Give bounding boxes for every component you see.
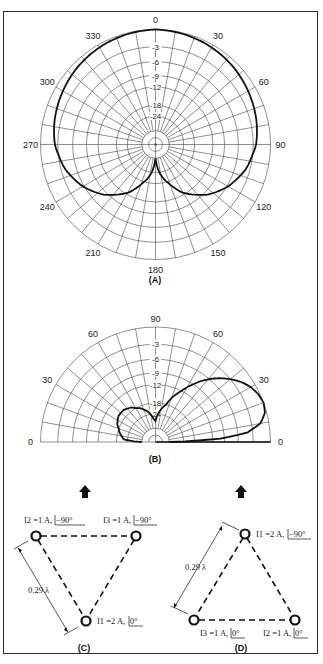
element-link <box>38 540 84 617</box>
db-label: -18 <box>150 101 162 110</box>
grid-spoke <box>82 155 147 233</box>
angle-label: 30 <box>259 375 269 385</box>
grid-spoke <box>160 36 195 131</box>
antenna-figure: 0306090120150180210240270300330-3-6-9-12… <box>0 0 323 664</box>
element-i1 <box>241 530 250 539</box>
db-label: -24 <box>150 112 162 121</box>
db-label: -9 <box>152 369 160 378</box>
grid-spoke <box>164 354 229 432</box>
angle-label: 180 <box>148 265 163 275</box>
grid-spoke <box>166 153 244 218</box>
element-link <box>88 540 134 617</box>
dimension-extension <box>222 522 239 530</box>
db-label: -12 <box>150 381 162 390</box>
grid-spoke <box>166 71 244 136</box>
grid-spoke <box>116 36 151 131</box>
grid-spoke <box>116 157 151 252</box>
angle-label: 210 <box>85 248 100 258</box>
db-label: -12 <box>150 83 162 92</box>
angle-label: 120 <box>256 202 271 212</box>
angle-label: 0 <box>28 437 33 447</box>
label-i1: I1 =2 A, <box>256 529 284 539</box>
angle-label: 60 <box>88 329 98 339</box>
angle-label: 30 <box>42 375 52 385</box>
elevation-polar-chart-b: 003030606090-3-6-9-12-18-24 <box>28 314 283 447</box>
array-c: I2 =1 A, −90° I3 =1 A, −90° I1 =2 A, 0° … <box>14 485 157 653</box>
grid-spoke <box>164 56 229 134</box>
db-label: -6 <box>152 355 160 364</box>
grid-spoke <box>42 125 142 143</box>
caption-c: (C) <box>78 643 91 653</box>
direction-arrow-icon <box>235 485 247 498</box>
element-link <box>196 538 243 616</box>
db-label: -9 <box>152 72 160 81</box>
element-i3 <box>132 532 141 541</box>
grid-spoke <box>47 149 142 184</box>
grid-spoke <box>67 153 145 218</box>
phase-i1: −90° <box>289 529 306 539</box>
db-label: -3 <box>152 43 160 52</box>
angle-label: 300 <box>40 77 55 87</box>
spacing-c: 0.29 λ <box>28 585 50 595</box>
label-i1: I1 =2 A, <box>97 616 125 626</box>
db-label: -6 <box>152 58 160 67</box>
caption-d: (D) <box>235 643 248 653</box>
label-i3: I3 =1 A, <box>103 515 131 525</box>
angle-label: 330 <box>85 31 100 41</box>
angle-label: 90 <box>150 314 160 324</box>
grid-spoke <box>160 157 195 252</box>
caption-b: (B) <box>149 454 162 464</box>
grid-spoke <box>169 422 269 440</box>
angle-label: 150 <box>210 248 225 258</box>
grid-spoke <box>67 368 145 433</box>
grid-spoke <box>160 334 195 429</box>
grid-spoke <box>67 71 145 136</box>
azimuth-polar-chart-a: 0306090120150180210240270300330-3-6-9-12… <box>23 15 286 275</box>
label-i3: I3 =1 A, <box>200 628 228 638</box>
grid-spoke <box>82 354 147 432</box>
angle-label: 240 <box>40 202 55 212</box>
phase-i3: 0° <box>232 628 240 638</box>
grid-spoke <box>42 422 142 440</box>
element-link <box>247 538 293 616</box>
phase-i2: −90° <box>56 515 73 525</box>
caption-a: (A) <box>149 275 162 285</box>
db-label: -3 <box>152 340 160 349</box>
direction-arrow-icon <box>79 485 91 498</box>
db-label: -18 <box>150 399 162 408</box>
element-i1 <box>82 617 91 626</box>
grid-spoke <box>166 368 244 433</box>
label-i2: I2 =1 A, <box>263 628 291 638</box>
element-i3 <box>190 616 199 625</box>
grid-spoke <box>168 149 263 184</box>
phase-i2: 0° <box>295 628 303 638</box>
angle-label: 30 <box>213 31 223 41</box>
dimension-extension <box>171 606 188 614</box>
grid-spoke <box>116 334 151 429</box>
array-d: I1 =2 A, −90° I3 =1 A, 0° I2 =1 A, 0° 0.… <box>171 485 311 653</box>
angle-label: 60 <box>213 329 223 339</box>
grid-spoke <box>164 155 229 233</box>
spacing-d: 0.29 λ <box>185 562 207 572</box>
label-i2: I2 =1 A, <box>24 515 52 525</box>
angle-label: 270 <box>23 140 38 150</box>
grid-spoke <box>168 105 263 140</box>
angle-label: 0 <box>153 15 158 25</box>
angle-label: 60 <box>259 77 269 87</box>
element-i2 <box>291 616 300 625</box>
grid-spoke <box>169 125 269 143</box>
angle-label: 0 <box>278 437 283 447</box>
phase-i1: 0° <box>130 616 138 626</box>
element-i2 <box>32 532 41 541</box>
grid-spoke <box>47 105 142 140</box>
grid-spoke <box>82 56 147 134</box>
center-dot <box>154 143 156 145</box>
phase-i3: −90° <box>135 515 152 525</box>
dimension-extension <box>14 541 28 549</box>
angle-label: 90 <box>275 140 285 150</box>
